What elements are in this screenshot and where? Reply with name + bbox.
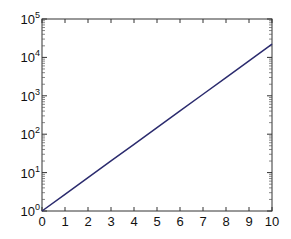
y-tick-labels: 100101102103104105 <box>21 10 40 219</box>
axes-box <box>42 19 272 211</box>
y-tick-label: 100 <box>21 202 40 219</box>
plot-frame <box>42 19 272 211</box>
x-tick-label: 4 <box>130 214 137 229</box>
series-line-exp <box>42 44 272 211</box>
y-tick-label: 105 <box>21 10 40 27</box>
y-major-ticks <box>42 19 272 211</box>
y-tick-label: 104 <box>21 48 40 65</box>
x-tick-label: 5 <box>153 214 160 229</box>
x-tick-label: 6 <box>176 214 183 229</box>
x-tick-label: 7 <box>199 214 206 229</box>
x-ticks <box>42 19 272 211</box>
x-tick-label: 0 <box>38 214 45 229</box>
y-tick-label: 101 <box>21 164 40 181</box>
y-tick-label: 103 <box>21 87 40 104</box>
x-tick-label: 8 <box>222 214 229 229</box>
x-tick-label: 10 <box>265 214 279 229</box>
x-tick-label: 3 <box>107 214 114 229</box>
x-tick-labels: 012345678910 <box>38 214 279 229</box>
chart: 100101102103104105 012345678910 <box>0 0 291 239</box>
y-minor-ticks <box>42 21 272 200</box>
x-tick-label: 2 <box>84 214 91 229</box>
x-tick-label: 1 <box>61 214 68 229</box>
y-tick-label: 102 <box>21 125 40 142</box>
x-tick-label: 9 <box>245 214 252 229</box>
